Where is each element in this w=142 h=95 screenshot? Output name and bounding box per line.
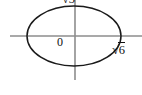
radical-argument-y: 3 [68, 0, 75, 6]
ellipse-figure: 0 √6 √3 [0, 0, 142, 95]
x-vertex-label: √6 [112, 43, 125, 57]
origin-label: 0 [57, 36, 63, 48]
radical-argument-x: 6 [118, 42, 125, 57]
y-vertex-label: √3 [62, 0, 75, 6]
